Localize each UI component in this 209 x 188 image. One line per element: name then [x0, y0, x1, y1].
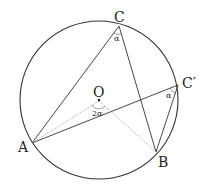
label-A: A: [17, 139, 29, 155]
angle-label-C2: α: [166, 91, 172, 100]
segment-OA-dotted: [32, 101, 99, 143]
label-O: O: [93, 84, 104, 100]
segment-CB: [119, 26, 156, 152]
label-C-prime: C′: [182, 75, 196, 91]
label-C: C: [114, 9, 125, 25]
segment-OB-dotted: [99, 101, 156, 152]
inscribed-angle-diagram: A B C C′ O α α 2α: [0, 0, 209, 188]
angle-label-O: 2α: [92, 109, 103, 118]
angle-label-C: α: [114, 34, 120, 43]
label-B: B: [158, 154, 168, 170]
